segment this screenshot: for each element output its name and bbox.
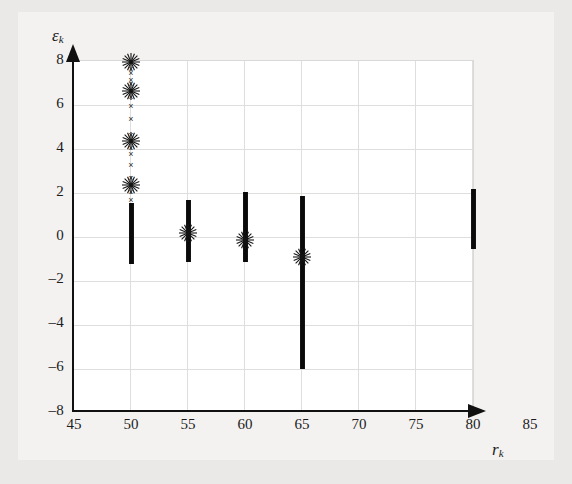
marker-burst-cluster [120, 130, 142, 152]
marker-burst-cluster [177, 222, 199, 244]
figure-container: εk rk 86420–2–4–6–8 455055606570758085 ×… [0, 0, 572, 484]
marker-burst-cluster [120, 174, 142, 196]
data-band [129, 203, 134, 264]
marker-burst-cluster [234, 229, 256, 251]
data-point-marker: × [128, 102, 133, 111]
marker-burst-cluster [120, 80, 142, 102]
data-band [471, 189, 476, 248]
data-point-marker: × [128, 196, 133, 205]
data-layer: ×××××××××××××××××× [0, 0, 572, 484]
marker-burst-cluster [120, 51, 142, 73]
marker-burst-cluster [291, 246, 313, 268]
data-band [300, 196, 305, 369]
data-point-marker: × [128, 161, 133, 170]
data-band [243, 192, 248, 262]
data-point-marker: × [128, 115, 133, 124]
